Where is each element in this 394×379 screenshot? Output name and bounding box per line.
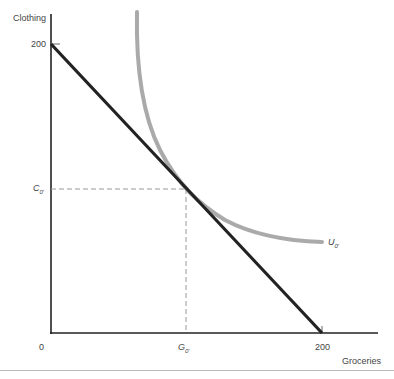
y-axis-label: Clothing	[13, 13, 46, 23]
u0-sub: 0'	[335, 243, 339, 249]
g0-main: G	[178, 342, 185, 352]
origin-label: 0	[39, 342, 44, 352]
c0-label: C0'	[33, 183, 44, 195]
x-tick-label-200: 200	[315, 342, 330, 352]
u0-label: U0'	[328, 237, 339, 249]
c0-sub: 0'	[40, 189, 44, 195]
chart-canvas	[0, 0, 394, 379]
g0-sub: 0'	[185, 348, 189, 354]
indifference-curve-u0	[137, 12, 322, 242]
g0-label: G0'	[178, 342, 190, 354]
x-axis-label: Groceries	[342, 356, 381, 366]
bottom-divider	[0, 370, 394, 371]
y-tick-label-200: 200	[31, 39, 46, 49]
